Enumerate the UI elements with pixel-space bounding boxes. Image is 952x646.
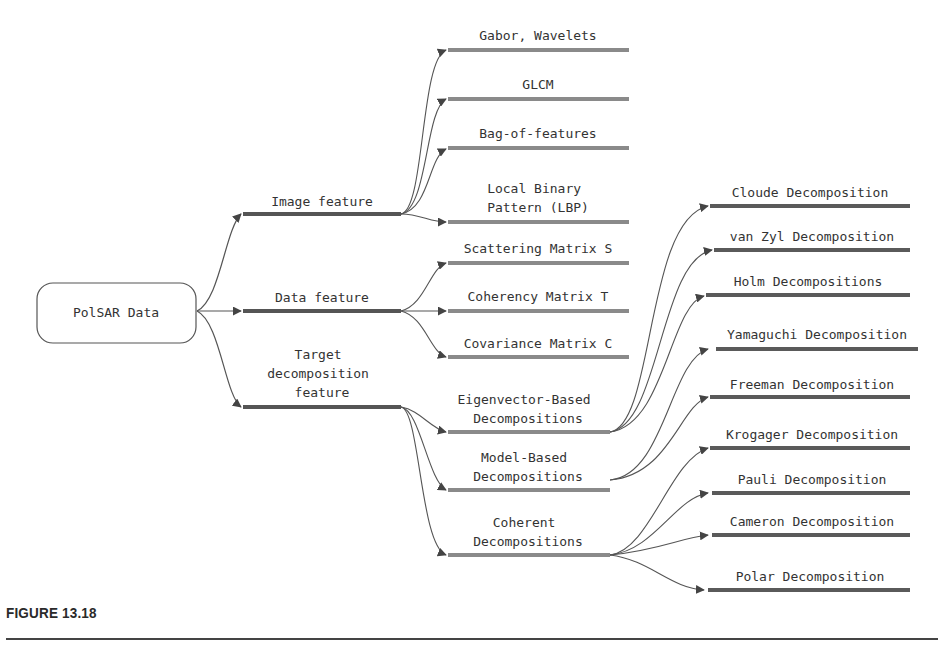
node-scattering-matrix: Scattering Matrix S <box>464 241 613 256</box>
coherent-connectors <box>610 448 708 590</box>
node-van-zyl-decomposition: van Zyl Decomposition <box>730 229 894 244</box>
image-feature-connectors <box>401 50 446 222</box>
level1-label-data-feature: Data feature <box>275 290 369 305</box>
root-node-label: PolSAR Data <box>73 305 159 320</box>
level2-labels: Gabor, Wavelets GLCM Bag-of-features Loc… <box>458 28 613 549</box>
level3-labels: Cloude Decomposition van Zyl Decompositi… <box>726 185 907 584</box>
root-connectors <box>197 214 241 407</box>
caption-divider <box>6 638 938 640</box>
node-covariance-matrix: Covariance Matrix C <box>464 336 613 351</box>
node-freeman-decomposition: Freeman Decomposition <box>730 377 894 392</box>
node-pauli-decomposition: Pauli Decomposition <box>738 472 887 487</box>
node-local-binary-pattern: Local Binary Pattern (LBP) <box>487 181 589 215</box>
node-eigenvector-based: Eigenvector-Based Decompositions <box>458 392 599 426</box>
node-cloude-decomposition: Cloude Decomposition <box>732 185 889 200</box>
node-coherency-matrix: Coherency Matrix T <box>468 289 609 304</box>
level1-labels: Image feature Data feature Target decomp… <box>267 194 377 400</box>
eigenvector-connectors <box>610 206 712 432</box>
node-model-based: Model-Based Decompositions <box>473 450 583 484</box>
polsar-feature-tree-diagram: PolSAR Data Image feature Data feature T… <box>0 0 952 646</box>
node-glcm: GLCM <box>522 77 553 92</box>
level1-label-target-decomposition-feature: Target decomposition feature <box>267 347 377 400</box>
data-feature-connectors <box>401 263 446 357</box>
node-bag-of-features: Bag-of-features <box>479 126 596 141</box>
node-holm-decompositions: Holm Decompositions <box>734 274 883 289</box>
node-yamaguchi-decomposition: Yamaguchi Decomposition <box>727 327 907 342</box>
target-feature-connectors <box>401 407 446 555</box>
node-gabor-wavelets: Gabor, Wavelets <box>479 28 596 43</box>
node-krogager-decomposition: Krogager Decomposition <box>726 427 898 442</box>
level3-bars <box>706 204 918 592</box>
root-node-polsar-data: PolSAR Data <box>37 283 196 343</box>
node-cameron-decomposition: Cameron Decomposition <box>730 514 894 529</box>
level1-label-image-feature: Image feature <box>271 194 373 209</box>
node-coherent: Coherent Decompositions <box>473 515 583 549</box>
node-polar-decomposition: Polar Decomposition <box>736 569 885 584</box>
figure-caption: FIGURE 13.18 <box>6 604 97 621</box>
model-connectors <box>610 349 708 480</box>
